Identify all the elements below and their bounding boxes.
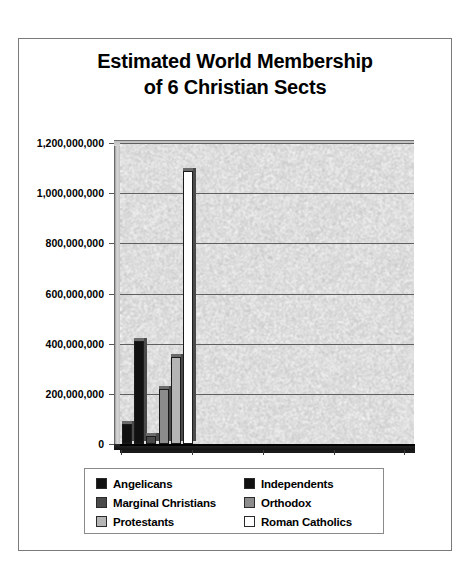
x-axis-tick (263, 450, 264, 455)
y-axis-tick-label: 1,000,000,000 (0, 187, 104, 199)
chart-legend: AngelicansIndependentsMarginal Christian… (84, 468, 384, 534)
y-axis-tick-label: 200,000,000 (0, 388, 104, 400)
x-axis-tick (334, 450, 335, 455)
x-axis (120, 444, 415, 446)
legend-label: Independents (261, 478, 333, 490)
legend-label: Protestants (113, 516, 174, 528)
bar-marginal-christians (146, 436, 156, 444)
gridline (120, 294, 414, 295)
legend-label: Angelicans (113, 478, 172, 490)
legend-item[interactable]: Roman Catholics (244, 516, 383, 528)
gridline (120, 193, 414, 194)
legend-label: Marginal Christians (113, 497, 216, 509)
bar-face (134, 341, 144, 444)
bar-independents (134, 341, 144, 444)
gridline (120, 344, 414, 345)
bar-face (183, 171, 193, 444)
x-axis-tick (404, 450, 405, 455)
y-axis-tick-label: 800,000,000 (0, 237, 104, 249)
legend-row: AngelicansIndependents (85, 474, 383, 493)
x-axis-tick (121, 450, 122, 455)
legend-item[interactable]: Protestants (85, 516, 244, 528)
legend-swatch-icon (244, 478, 255, 489)
chart-title: Estimated World Membership of 6 Christia… (19, 48, 451, 100)
bar-angelicans (122, 424, 132, 444)
gridline (120, 143, 414, 144)
bar-face (159, 389, 169, 444)
legend-swatch-icon (96, 478, 107, 489)
chart-title-line-2: of 6 Christian Sects (19, 74, 451, 100)
legend-swatch-icon (244, 516, 255, 527)
bar-face (171, 357, 181, 444)
bar-protestants (171, 357, 181, 444)
bar-roman-catholics (183, 171, 193, 444)
bar-side (144, 338, 147, 441)
y-axis-tick-label: 0 (0, 438, 104, 450)
legend-item[interactable]: Independents (244, 478, 383, 490)
legend-swatch-icon (244, 497, 255, 508)
legend-item[interactable]: Marginal Christians (85, 497, 244, 509)
legend-swatch-icon (96, 497, 107, 508)
legend-row: ProtestantsRoman Catholics (85, 512, 383, 531)
gridline (120, 243, 414, 244)
bar-face (122, 424, 132, 444)
legend-swatch-icon (96, 516, 107, 527)
plot-area (120, 143, 414, 444)
chart-page: Estimated World Membership of 6 Christia… (0, 0, 471, 575)
y-axis-tick-label: 1,200,000,000 (0, 137, 104, 149)
legend-label: Roman Catholics (261, 516, 352, 528)
legend-label: Orthodox (261, 497, 311, 509)
plot-floor-front (120, 450, 415, 453)
bar-orthodox (159, 389, 169, 444)
legend-row: Marginal ChristiansOrthodox (85, 493, 383, 512)
bar-face (146, 436, 156, 444)
y-axis-tick-label: 600,000,000 (0, 288, 104, 300)
x-axis-tick (192, 450, 193, 455)
y-axis-tick-label: 400,000,000 (0, 338, 104, 350)
legend-item[interactable]: Orthodox (244, 497, 383, 509)
chart-area: 1,200,000,0001,000,000,000800,000,000600… (19, 128, 451, 453)
bar-side (193, 168, 196, 441)
chart-title-line-1: Estimated World Membership (97, 50, 373, 72)
legend-item[interactable]: Angelicans (85, 478, 244, 490)
